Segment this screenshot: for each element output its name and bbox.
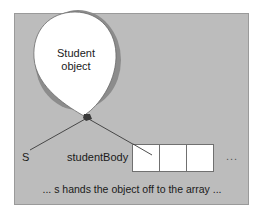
diagram-caption: ... s hands the object off to the array …	[0, 183, 264, 195]
array-continuation: ...	[226, 150, 238, 162]
reference-line-array-tip	[133, 144, 152, 155]
